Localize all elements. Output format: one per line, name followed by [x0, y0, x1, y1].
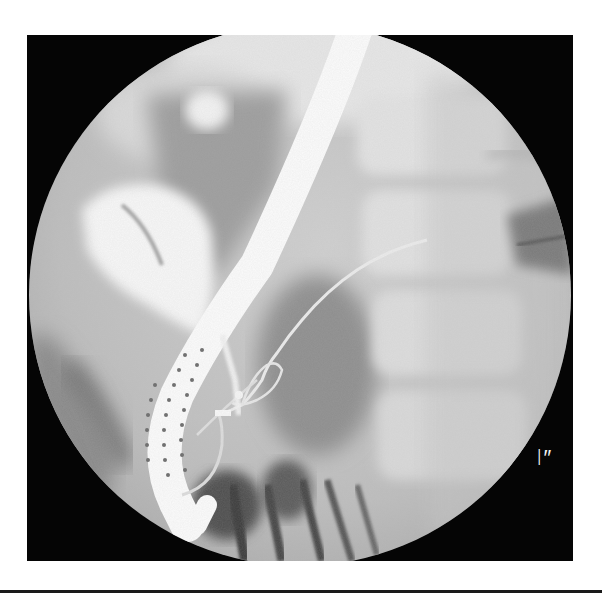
fluoroscopy-frame	[27, 35, 573, 561]
fluoroscopy-image	[27, 35, 573, 561]
bottom-divider	[0, 590, 602, 593]
field-of-view	[27, 35, 573, 561]
orientation-marker: I″	[536, 447, 552, 469]
